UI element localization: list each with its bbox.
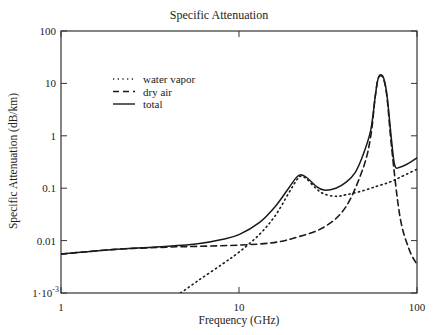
y-tick-label: 0.01 — [37, 235, 56, 247]
y-axis-label: Specific Attenuation (dB/km) — [7, 86, 19, 236]
legend-label: dry air — [143, 86, 172, 98]
x-tick-label: 10 — [234, 301, 246, 313]
x-tick-label: 100 — [409, 301, 426, 313]
legend-label: total — [143, 98, 163, 110]
plot-frame — [61, 31, 417, 293]
x-axis-label: Frequency (GHz) — [61, 314, 417, 326]
y-tick-label: 0.1 — [42, 182, 56, 194]
y-tick-label: 100 — [40, 25, 57, 37]
y-tick-label: 10 — [45, 77, 57, 89]
x-tick-label: 1 — [58, 301, 64, 313]
y-tick-label: 1 — [51, 130, 57, 142]
legend-label: water vapor — [143, 73, 196, 85]
y-tick-label: 1·10-3 — [32, 285, 59, 299]
series-water-vapor — [181, 169, 417, 293]
chart-plot: 1·10-30.010.1110100110100water vapordry … — [0, 0, 438, 335]
